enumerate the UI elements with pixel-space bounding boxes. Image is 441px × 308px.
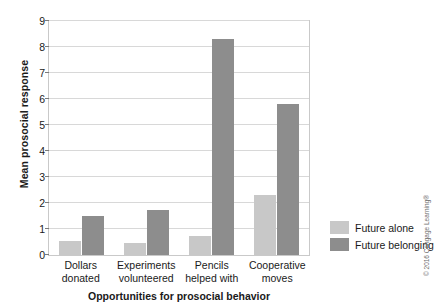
legend-item: Future belonging: [330, 236, 434, 253]
bar: [147, 210, 169, 256]
y-axis-tick-label: 6: [39, 93, 45, 105]
bar: [82, 216, 104, 255]
legend-swatch: [330, 238, 349, 251]
x-axis-category-label: Cooperativemoves: [245, 259, 311, 291]
y-axis-tick-label: 4: [39, 145, 45, 157]
bar-group: [124, 21, 169, 255]
bar-group: [59, 21, 104, 255]
bar-group: [254, 21, 299, 255]
x-axis-category-label: Dollarsdonated: [48, 259, 114, 291]
bar: [59, 241, 81, 255]
plot-area: 0123456789: [48, 20, 310, 256]
legend-swatch: [330, 221, 349, 234]
bar: [254, 195, 276, 255]
y-axis-tick-label: 0: [39, 249, 45, 261]
x-axis-category-label: Experimentsvolunteered: [114, 259, 180, 291]
chart-figure: Mean prosocial response 0123456789 Dolla…: [0, 0, 441, 308]
x-axis-category-labels: DollarsdonatedExperimentsvolunteeredPenc…: [48, 259, 310, 291]
y-axis-tick-label: 1: [39, 223, 45, 235]
bar: [277, 104, 299, 255]
bar: [124, 243, 146, 255]
y-axis-title: Mean prosocial response: [18, 24, 30, 224]
y-axis-tick-label: 3: [39, 171, 45, 183]
y-axis-tick-label: 9: [39, 15, 45, 27]
copyright-notice: © 2016 Cengage Learning®: [423, 176, 430, 296]
bar: [189, 236, 211, 255]
legend-label: Future alone: [355, 222, 414, 234]
x-axis-title: Opportunities for prosocial behavior: [48, 290, 310, 302]
bar: [212, 39, 234, 255]
y-axis-tick-label: 7: [39, 67, 45, 79]
bar-group: [189, 21, 234, 255]
x-axis-category-label: Pencilshelped with: [179, 259, 245, 291]
legend: Future aloneFuture belonging: [330, 219, 434, 253]
legend-item: Future alone: [330, 219, 434, 236]
y-axis-tick-label: 5: [39, 119, 45, 131]
y-axis-tick-label: 8: [39, 41, 45, 53]
bar-groups: [49, 21, 309, 255]
y-axis-tick-label: 2: [39, 197, 45, 209]
